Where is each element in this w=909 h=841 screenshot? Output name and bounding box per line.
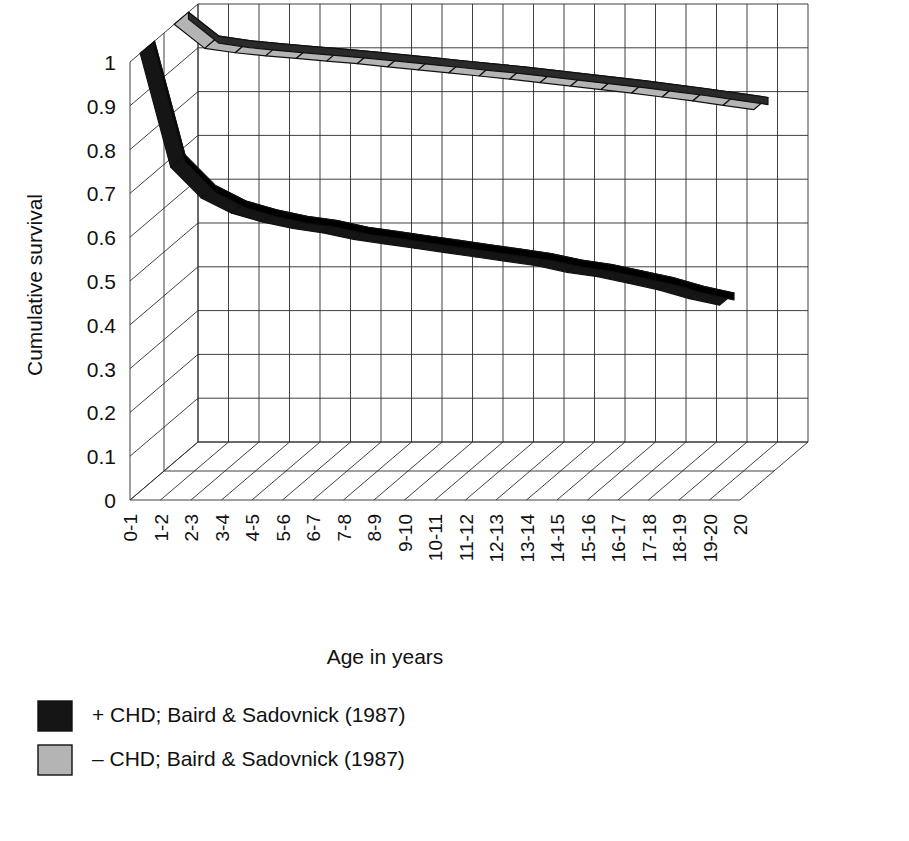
y-axis-tick-labels: 00.10.20.30.40.50.60.70.80.91 (87, 51, 117, 512)
y-tick-label: 0.9 (87, 95, 116, 118)
x-axis-title: Age in years (327, 645, 444, 668)
x-tick-label: 5-6 (273, 514, 294, 541)
chart-legend: + CHD; Baird & Sadovnick (1987)– CHD; Ba… (38, 701, 405, 775)
ribbon-facet (140, 41, 185, 167)
x-tick-label: 1-2 (151, 514, 172, 541)
legend-label: – CHD; Baird & Sadovnick (1987) (92, 747, 405, 770)
x-tick-label: 9-10 (395, 514, 416, 552)
x-tick-label: 17-18 (639, 514, 660, 563)
chart-root: 00.10.20.30.40.50.60.70.80.91 0-11-22-33… (0, 0, 909, 841)
legend-label: + CHD; Baird & Sadovnick (1987) (92, 703, 405, 726)
x-tick-label: 20 (730, 514, 751, 535)
ribbon-layer (140, 12, 768, 305)
survival-3d-ribbon-chart: 00.10.20.30.40.50.60.70.80.91 0-11-22-33… (0, 0, 909, 841)
y-tick-label: 0.6 (87, 226, 116, 249)
ribbon-edge (154, 41, 734, 300)
x-axis-tick-labels: 0-11-22-33-44-55-66-77-88-99-1010-1111-1… (120, 514, 751, 563)
ribbon-edge (188, 12, 768, 104)
x-tick-label: 14-15 (547, 514, 568, 563)
x-tick-label: 3-4 (212, 514, 233, 542)
legend-swatch (38, 701, 72, 731)
x-tick-label: 19-20 (700, 514, 721, 563)
x-tick-label: 13-14 (517, 514, 538, 563)
y-axis-title: Cumulative survival (23, 194, 46, 376)
x-tick-label: 8-9 (364, 514, 385, 541)
ribbon-series-minus_chd (174, 12, 768, 110)
x-tick-label: 2-3 (181, 514, 202, 541)
y-tick-label: 0.2 (87, 401, 116, 424)
y-tick-label: 0.3 (87, 358, 116, 381)
x-tick-label: 12-13 (486, 514, 507, 563)
y-tick-label: 0.7 (87, 182, 116, 205)
y-tick-label: 0.5 (87, 270, 116, 293)
x-tick-label: 10-11 (425, 514, 446, 561)
x-tick-label: 7-8 (334, 514, 355, 541)
legend-swatch (38, 745, 72, 775)
y-tick-label: 0.4 (87, 314, 117, 337)
x-tick-label: 15-16 (578, 514, 599, 563)
y-tick-label: 0 (104, 489, 116, 512)
x-tick-label: 6-7 (303, 514, 324, 541)
y-tick-label: 0.8 (87, 139, 116, 162)
x-tick-label: 4-5 (242, 514, 263, 541)
y-tick-label: 1 (104, 51, 116, 74)
y-tick-label: 0.1 (87, 445, 116, 468)
x-tick-label: 0-1 (120, 514, 141, 541)
x-tick-label: 18-19 (669, 514, 690, 563)
x-tick-label: 16-17 (608, 514, 629, 563)
x-tick-label: 11-12 (456, 514, 477, 561)
